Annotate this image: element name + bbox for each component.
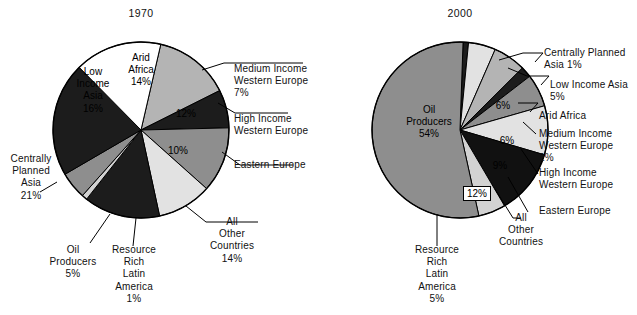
slice-value-arid-africa-2000: 6% <box>488 100 518 112</box>
pie-chart-2000: 2000 OilProducers54% 6% 6% 9% 12% <box>0 0 637 315</box>
slice-value-high-income-we-2000: 6% <box>492 135 522 147</box>
label-all-other-2000: AllOtherCountries <box>483 212 559 249</box>
slice-value-all-other-2000: 12% <box>463 186 491 201</box>
label-centrally-planned-2000: Centrally PlannedAsia 1% <box>544 47 626 71</box>
label-high-income-we-2000: High IncomeWestern Europe <box>539 167 613 191</box>
slice-value-eastern-europe-2000: 9% <box>485 160 515 172</box>
label-low-income-asia-2000: Low Income Asia5% <box>550 79 628 103</box>
leader-low-income-asia-tick-2000 <box>541 76 549 85</box>
label-medium-income-we-2000: Medium IncomeWestern Europe2% <box>539 128 613 165</box>
leader-cpa-tick-2000 <box>535 53 543 62</box>
slice-label-oil-producers-2000: OilProducers54% <box>398 104 460 141</box>
label-arid-africa-2000: Arid Africa <box>539 110 586 122</box>
label-resource-rich-2000: ResourceRichLatinAmerica5% <box>406 244 468 305</box>
